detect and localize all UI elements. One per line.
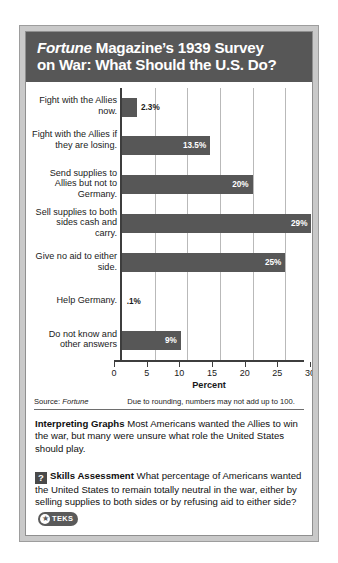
- source-row: Source: Fortune Due to rounding, numbers…: [34, 397, 304, 410]
- chart-title-magazine-name: Fortune: [37, 39, 92, 56]
- bar: 9%: [122, 331, 181, 350]
- chart-title-line-1: Fortune Magazine’s 1939 Survey: [37, 39, 303, 56]
- bar: 20%: [122, 175, 253, 194]
- figure-root: Fortune Magazine’s 1939 Survey on War: W…: [0, 0, 338, 563]
- axis-tick-label: 0: [111, 368, 116, 378]
- axis-tick: [245, 362, 246, 367]
- chart-title-line-1-rest: Magazine’s 1939 Survey: [92, 39, 264, 56]
- bar: .1%: [122, 292, 123, 311]
- category-label: Fight with the Allies if they are losing…: [32, 129, 117, 150]
- category-label: Give no aid to either side.: [32, 251, 117, 272]
- chart-title-line-2: on War: What Should the U.S. Do?: [37, 56, 303, 73]
- interpreting-graphs-block: Interpreting Graphs Most Americans wante…: [35, 418, 303, 456]
- axis-tick: [147, 362, 148, 367]
- bar: 13.5%: [122, 136, 210, 155]
- interpreting-graphs-heading: Interpreting Graphs: [35, 418, 125, 429]
- axis-tick-label: 25: [272, 368, 282, 378]
- axis-tick: [114, 362, 115, 367]
- bar-value-label: 2.3%: [137, 103, 160, 112]
- teks-badge-label: TEKS: [52, 513, 73, 526]
- axis-tick: [277, 362, 278, 367]
- skills-assessment-block: ?Skills Assessment What percentage of Am…: [35, 470, 303, 526]
- axis-tick: [310, 362, 311, 367]
- category-label: Fight with the Allies now.: [32, 95, 117, 116]
- teks-badge: ★TEKS: [38, 512, 78, 527]
- bar-value-label: 25%: [265, 258, 285, 267]
- chart-plot-region: Fight with the Allies now.Fight with the…: [32, 88, 304, 360]
- source-label-text: Source:: [34, 397, 62, 406]
- axis-tick-label: 30: [305, 368, 313, 378]
- category-label: Do not know and other answers: [32, 329, 117, 350]
- axis-tick: [179, 362, 180, 367]
- category-label: Send supplies to Allies but not to Germa…: [32, 168, 117, 200]
- source-label: Source: Fortune: [34, 397, 124, 406]
- axis-tick-label: 10: [174, 368, 184, 378]
- axis-tick-label: 5: [144, 368, 149, 378]
- chart-area: Fight with the Allies now.Fight with the…: [26, 82, 312, 360]
- x-axis-ticks: [114, 362, 304, 367]
- source-publication: Fortune: [62, 397, 88, 406]
- axis-tick-label: 15: [207, 368, 217, 378]
- bar-value-label: .1%: [123, 297, 141, 306]
- x-axis-tick-labels: 051015202530: [114, 368, 304, 380]
- bar: 29%: [122, 214, 311, 233]
- bar: 2.3%: [122, 98, 137, 117]
- bar-value-label: 20%: [232, 180, 252, 189]
- bars-plot: 2.3%13.5%20%29%25%.1%9%: [120, 88, 304, 360]
- bar-value-label: 13.5%: [183, 141, 210, 150]
- chart-title-banner: Fortune Magazine’s 1939 Survey on War: W…: [26, 32, 312, 82]
- figure-inner-frame: Fortune Magazine’s 1939 Survey on War: W…: [25, 31, 313, 536]
- rounding-note: Due to rounding, numbers may not add up …: [124, 397, 304, 406]
- axis-tick-label: 20: [240, 368, 250, 378]
- bar: 25%: [122, 253, 285, 272]
- bar-value-label: 29%: [291, 219, 311, 228]
- figure-outer-frame: Fortune Magazine’s 1939 Survey on War: W…: [19, 25, 319, 542]
- category-label: Sell supplies to both sides cash and car…: [32, 207, 117, 239]
- star-icon: ★: [40, 514, 50, 524]
- category-label: Help Germany.: [32, 295, 117, 306]
- bar-value-label: 9%: [165, 336, 181, 345]
- category-axis-labels: Fight with the Allies now.Fight with the…: [32, 88, 117, 360]
- axis-tick: [212, 362, 213, 367]
- x-axis-title: Percent: [114, 380, 304, 390]
- question-mark-icon: ?: [35, 472, 47, 484]
- skills-assessment-heading: Skills Assessment: [50, 470, 134, 481]
